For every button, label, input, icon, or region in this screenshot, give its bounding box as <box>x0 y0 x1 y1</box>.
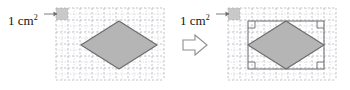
panel-right-graphics <box>0 0 350 90</box>
right-angle-marker-top-left <box>248 21 255 28</box>
right-arrow-icon-right <box>216 11 229 16</box>
rhombus-area-figure: 1 cm2 <box>0 0 350 90</box>
panel-right: 1 cm2 <box>0 0 350 90</box>
